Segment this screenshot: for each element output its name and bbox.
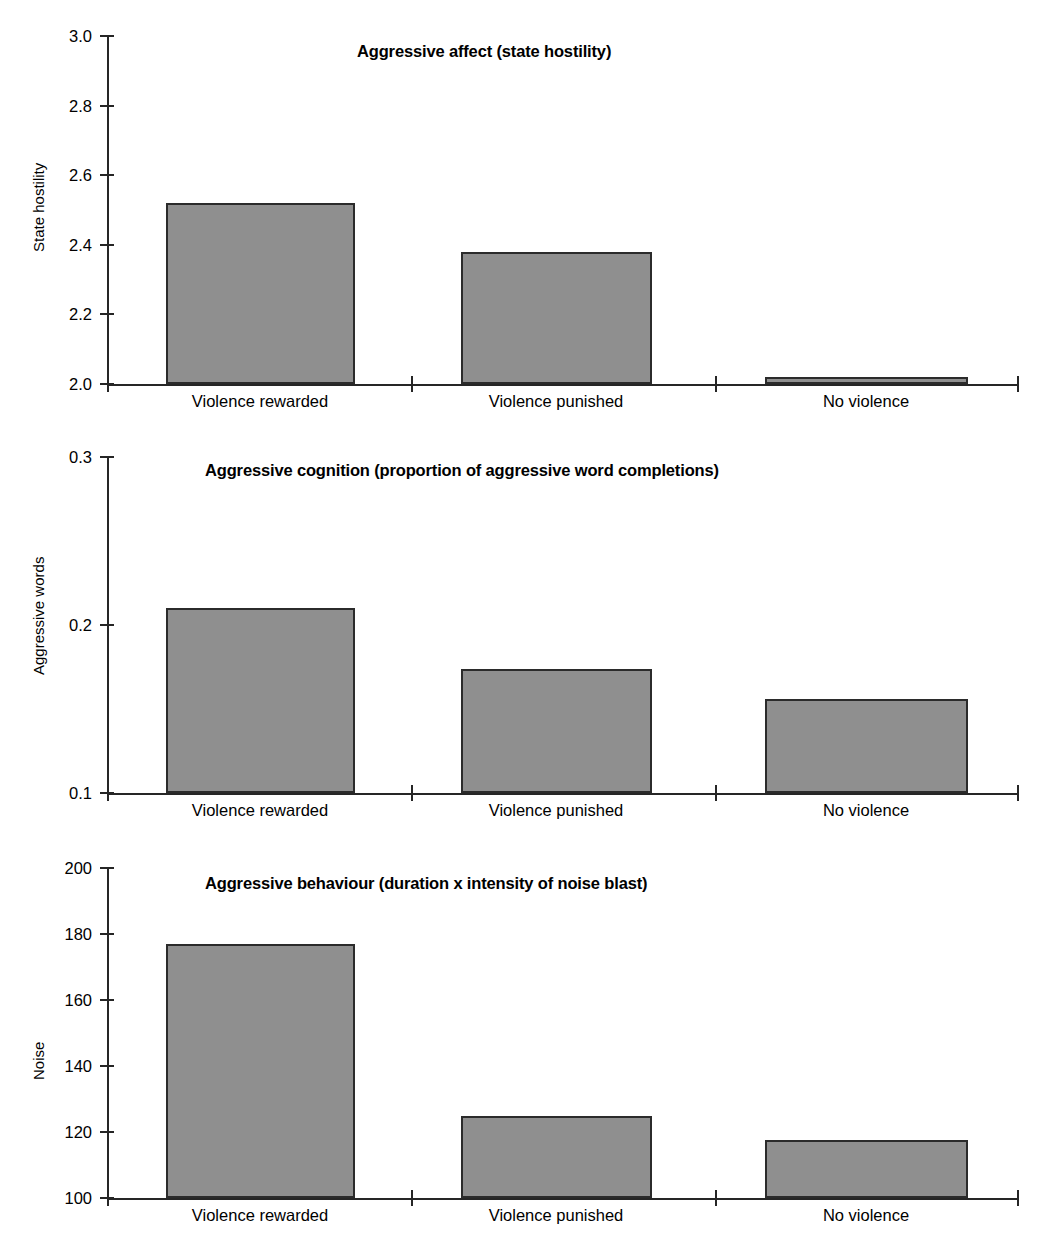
y-tick-mark bbox=[100, 244, 114, 246]
y-tick-label: 200 bbox=[64, 859, 92, 878]
x-tick-label: Violence punished bbox=[489, 801, 624, 820]
y-axis-title: Noise bbox=[30, 1042, 47, 1080]
y-tick-label: 2.2 bbox=[69, 305, 92, 324]
x-tick-mark bbox=[715, 376, 717, 392]
y-tick-mark bbox=[100, 313, 114, 315]
y-tick-label: 0.3 bbox=[69, 448, 92, 467]
y-tick-label: 2.8 bbox=[69, 96, 92, 115]
y-tick-mark bbox=[100, 105, 114, 107]
x-axis-line bbox=[107, 793, 1017, 795]
x-tick-mark bbox=[411, 785, 413, 801]
x-tick-mark bbox=[715, 785, 717, 801]
chart-panel-aggressive-behaviour: 100120140160180200NoiseAggressive behavi… bbox=[0, 830, 1046, 1247]
y-tick-label: 0.2 bbox=[69, 616, 92, 635]
x-tick-label: No violence bbox=[823, 801, 909, 820]
x-axis-line bbox=[107, 1198, 1017, 1200]
x-tick-label: Violence punished bbox=[489, 392, 624, 411]
x-axis-end-tick bbox=[107, 376, 109, 392]
x-tick-label: Violence rewarded bbox=[192, 801, 328, 820]
y-tick-label: 3.0 bbox=[69, 27, 92, 46]
x-tick-label: Violence rewarded bbox=[192, 392, 328, 411]
y-tick-mark bbox=[100, 35, 114, 37]
y-axis-line bbox=[107, 36, 109, 384]
y-tick-mark bbox=[100, 933, 114, 935]
bar bbox=[166, 608, 355, 793]
y-tick-label: 120 bbox=[64, 1123, 92, 1142]
x-axis-end-tick bbox=[1017, 376, 1019, 392]
y-tick-label: 180 bbox=[64, 925, 92, 944]
chart-panel-aggressive-cognition: 0.10.20.3Aggressive wordsAggressive cogn… bbox=[0, 415, 1046, 830]
y-tick-label: 2.0 bbox=[69, 375, 92, 394]
y-axis-line bbox=[107, 868, 109, 1198]
plot-area-2: 100120140160180200NoiseAggressive behavi… bbox=[0, 830, 1046, 1247]
x-tick-mark bbox=[715, 1190, 717, 1206]
bar bbox=[461, 1116, 652, 1199]
y-tick-label: 140 bbox=[64, 1057, 92, 1076]
x-tick-label: No violence bbox=[823, 392, 909, 411]
x-axis-end-tick bbox=[1017, 1190, 1019, 1206]
x-tick-label: Violence punished bbox=[489, 1206, 624, 1225]
chart-title: Aggressive affect (state hostility) bbox=[357, 42, 611, 61]
bar bbox=[765, 377, 968, 384]
y-tick-mark bbox=[100, 1065, 114, 1067]
x-axis-end-tick bbox=[107, 1190, 109, 1206]
y-tick-mark bbox=[100, 174, 114, 176]
y-tick-label: 2.4 bbox=[69, 235, 92, 254]
bar bbox=[166, 944, 355, 1198]
x-axis-line bbox=[107, 384, 1017, 386]
x-axis-end-tick bbox=[107, 785, 109, 801]
y-tick-mark bbox=[100, 999, 114, 1001]
y-axis-title: State hostility bbox=[30, 163, 47, 252]
chart-title: Aggressive cognition (proportion of aggr… bbox=[205, 461, 719, 480]
y-tick-mark bbox=[100, 624, 114, 626]
y-tick-mark bbox=[100, 1131, 114, 1133]
bar bbox=[765, 699, 968, 793]
x-tick-mark bbox=[411, 1190, 413, 1206]
x-tick-mark bbox=[411, 376, 413, 392]
y-tick-label: 0.1 bbox=[69, 784, 92, 803]
plot-area-0: 2.02.22.42.62.83.0State hostilityAggress… bbox=[0, 0, 1046, 415]
x-tick-label: No violence bbox=[823, 1206, 909, 1225]
bar bbox=[166, 203, 355, 384]
bar bbox=[461, 669, 652, 793]
bar bbox=[461, 252, 652, 384]
plot-area-1: 0.10.20.3Aggressive wordsAggressive cogn… bbox=[0, 415, 1046, 830]
y-tick-label: 100 bbox=[64, 1189, 92, 1208]
y-axis-title: Aggressive words bbox=[30, 557, 47, 675]
y-tick-mark bbox=[100, 456, 114, 458]
x-tick-label: Violence rewarded bbox=[192, 1206, 328, 1225]
y-tick-mark bbox=[100, 867, 114, 869]
x-axis-end-tick bbox=[1017, 785, 1019, 801]
chart-title: Aggressive behaviour (duration x intensi… bbox=[205, 874, 647, 893]
chart-panel-aggressive-affect: 2.02.22.42.62.83.0State hostilityAggress… bbox=[0, 0, 1046, 415]
bar bbox=[765, 1140, 968, 1198]
y-tick-label: 2.6 bbox=[69, 166, 92, 185]
y-tick-label: 160 bbox=[64, 991, 92, 1010]
